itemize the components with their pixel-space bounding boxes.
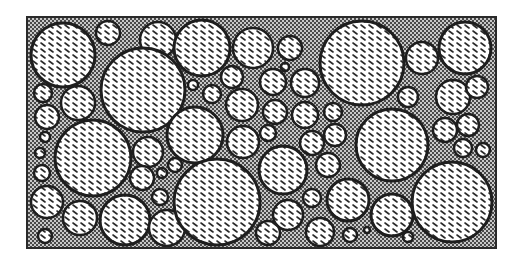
aggregate-particle (260, 125, 276, 141)
aggregate-particle (324, 124, 346, 146)
aggregate-particle (439, 22, 491, 74)
aggregate-particle (203, 85, 221, 103)
particle-packing-diagram (0, 0, 523, 264)
aggregate-particle (133, 137, 163, 167)
aggregate-particle (300, 131, 324, 155)
aggregate-particle (130, 166, 154, 190)
aggregate-particle (188, 80, 198, 90)
aggregate-particle (278, 36, 302, 60)
aggregate-particle (303, 189, 321, 207)
aggregate-particle (233, 28, 273, 68)
aggregate-particle (40, 132, 50, 142)
aggregate-particle (316, 153, 340, 177)
aggregate-particle (157, 168, 167, 178)
aggregate-particle (63, 201, 97, 235)
aggregate-particle (174, 159, 260, 245)
aggregate-particle (454, 139, 472, 157)
aggregate-particle (398, 87, 418, 107)
aggregate-particle (34, 84, 52, 102)
aggregate-particle (291, 69, 319, 97)
aggregate-particle (221, 66, 243, 88)
aggregate-particle (61, 86, 95, 120)
aggregate-particle (281, 63, 289, 71)
aggregate-particle (227, 126, 259, 158)
aggregate-particle (476, 143, 490, 157)
aggregate-particle (403, 232, 413, 242)
aggregate-particle (406, 42, 438, 74)
aggregate-particle (38, 229, 52, 243)
aggregate-particle (327, 179, 369, 221)
aggregate-particle (466, 76, 488, 98)
aggregate-particle (100, 195, 150, 245)
aggregate-particle (343, 228, 357, 242)
aggregate-particle (96, 21, 120, 45)
aggregate-particle (356, 109, 428, 181)
aggregate-particle (306, 218, 334, 246)
aggregate-particle (263, 100, 287, 124)
aggregate-particle (35, 105, 59, 129)
aggregate-particle (31, 23, 95, 87)
aggregate-particle (226, 89, 258, 121)
aggregate-particle (324, 103, 342, 121)
aggregate-particle (35, 148, 45, 158)
aggregate-particle (292, 102, 318, 128)
aggregate-particle (256, 221, 280, 245)
aggregate-particle (412, 162, 492, 242)
aggregate-particle (259, 146, 307, 194)
aggregate-particle (167, 107, 223, 163)
aggregate-particle (55, 120, 131, 196)
aggregate-particle (457, 114, 479, 136)
aggregate-particle (174, 20, 230, 76)
aggregate-particle (152, 189, 168, 205)
aggregate-particle (433, 118, 457, 142)
aggregate-particle (320, 21, 404, 105)
aggregate-particle (364, 227, 370, 233)
aggregate-particle (260, 69, 286, 95)
aggregate-particle (371, 194, 413, 236)
aggregate-particle (31, 186, 63, 218)
aggregate-particle (34, 165, 50, 181)
